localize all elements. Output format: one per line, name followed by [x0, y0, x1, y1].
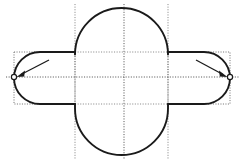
bounding-box-left-cap	[14, 52, 75, 104]
left-lobe-cap	[14, 52, 75, 104]
cross-outline-group	[14, 8, 230, 155]
bounding-box-right-cap	[168, 52, 230, 104]
bounding-boxes-group	[14, 52, 230, 104]
right-vertex-marker	[227, 74, 232, 79]
top-lobe-arc	[75, 8, 168, 54]
diagram-canvas	[0, 0, 246, 163]
left-arrow-head-icon	[17, 71, 26, 78]
bottom-lobe-arc	[75, 104, 168, 155]
right-callout-leader-line	[196, 60, 223, 75]
left-vertex-marker	[11, 74, 16, 79]
construction-lines-group	[6, 4, 240, 159]
left-callout-leader-line	[21, 60, 49, 75]
right-lobe-cap	[168, 52, 230, 104]
right-arrow-head-icon	[219, 71, 228, 78]
geometric-construction-figure	[0, 0, 246, 163]
